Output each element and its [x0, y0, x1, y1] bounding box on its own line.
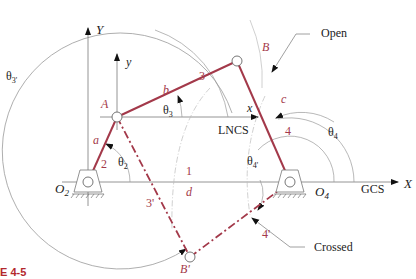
open-leader — [272, 34, 310, 72]
link-4-prime-number: 4' — [262, 227, 270, 241]
link-3-prime-number: 3' — [146, 196, 154, 210]
global-x-label: X — [403, 176, 413, 191]
joint-B — [232, 56, 242, 66]
link-b-label: b — [163, 83, 169, 97]
link-3-number: 3 — [199, 69, 205, 83]
link-3-prime — [117, 117, 190, 257]
open-label: Open — [321, 26, 347, 40]
theta3p-label: θ3' — [6, 69, 18, 85]
link-d-label: d — [186, 185, 193, 199]
figure-caption: E 4-5 — [0, 266, 26, 278]
joint-B-prime — [185, 252, 195, 262]
crossed-label: Crossed — [314, 240, 353, 254]
crossed-leader — [252, 218, 305, 247]
link-3 — [117, 61, 237, 117]
theta2-label: θ2 — [118, 155, 128, 171]
theta4-label: θ4 — [328, 125, 338, 141]
link-4-number: 4 — [285, 124, 291, 138]
construction-arc — [250, 20, 262, 88]
theta4p-label: θ4' — [247, 154, 259, 170]
diagram-canvas: Y X GCS y x LNCS A B B' O2 O4 a b c d 1 … — [0, 0, 416, 279]
joint-A — [112, 112, 122, 122]
point-B-label: B — [262, 40, 270, 54]
ground-pivot-O2 — [71, 170, 104, 198]
local-y-label: y — [125, 55, 132, 69]
theta3-label: θ3 — [163, 103, 173, 119]
link-1-number: 1 — [186, 164, 192, 178]
link-4-prime — [190, 182, 290, 257]
link-a-label: a — [93, 133, 99, 147]
point-A-label: A — [100, 97, 109, 111]
pivot-O2-label: O2 — [55, 181, 69, 198]
link-2-number: 2 — [101, 157, 107, 171]
lncs-label: LNCS — [218, 123, 249, 137]
theta4-arc-inner — [276, 112, 334, 122]
gcs-label: GCS — [361, 182, 384, 196]
fourbar-linkage-diagram: Y X GCS y x LNCS A B B' O2 O4 a b c d 1 … — [0, 0, 416, 279]
link-c-label: c — [281, 92, 287, 106]
theta3-arc — [178, 96, 182, 117]
link-4 — [237, 61, 290, 182]
coupler-arc — [172, 88, 210, 230]
point-B-prime-label: B' — [180, 262, 190, 276]
pivot-O4-label: O4 — [315, 184, 329, 201]
local-x-label: x — [246, 101, 253, 115]
global-y-label: Y — [96, 22, 105, 37]
ground-pivot-O4 — [273, 170, 306, 198]
